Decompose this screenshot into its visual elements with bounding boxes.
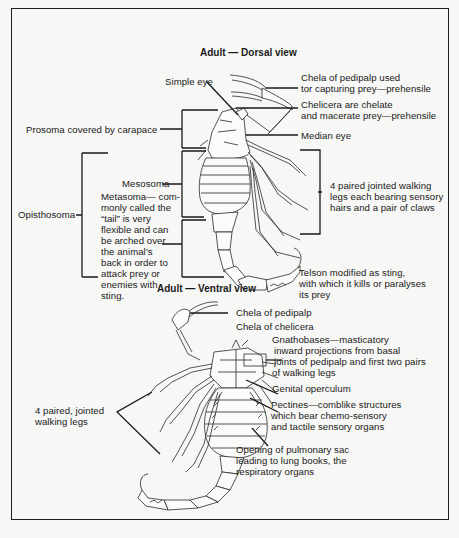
label-line: hairs and a pair of claws — [330, 202, 443, 213]
label-genital-operculum: Genital operculum — [272, 383, 351, 394]
ventral-view-title: Adult — Ventral view — [157, 283, 256, 294]
label-line: Opening of pulmonary sac — [236, 444, 349, 455]
label-line: be arched over — [101, 235, 180, 246]
label-prosoma: Prosoma covered by carapace — [26, 124, 157, 135]
label-ventral-walking-legs: 4 paired, jointed walking legs — [35, 405, 104, 427]
label-line: 4 paired jointed walking — [330, 180, 443, 191]
label-line: respiratory organs — [236, 466, 349, 477]
label-chela-of-pedipalp: Chela of pedipalp used tor capturing pre… — [301, 72, 431, 94]
label-line: back in order to — [101, 257, 180, 268]
label-line: the animal’s — [101, 246, 180, 257]
label-line: of walking legs — [272, 367, 426, 378]
label-pulmonary-sac: Opening of pulmonary sac leading to lung… — [236, 444, 349, 477]
label-line: flexible and can — [101, 224, 180, 235]
label-line: leading to lung books, the — [236, 455, 349, 466]
label-line: and tactile sensory organs — [271, 421, 401, 432]
label-chelicera: Chelicera are chelate and macerate prey—… — [301, 99, 436, 121]
label-dorsal-walking-legs: 4 paired jointed walking legs each beari… — [330, 180, 443, 213]
label-gnathobases: Gnathobases—masticatory inward projectio… — [272, 334, 426, 378]
label-line: 4 paired, jointed — [35, 405, 104, 416]
label-telson: Telson modified as sting, with which it … — [299, 267, 426, 300]
label-pectines: Pectines—comblike structures which bear … — [271, 399, 401, 432]
label-opisthosoma: Opisthosoma — [18, 209, 75, 220]
label-line: tor capturing prey—prehensile — [301, 83, 431, 94]
label-line: walking legs — [35, 416, 104, 427]
label-line: Metasoma— com- — [101, 191, 180, 202]
label-ventral-chela-of-pedipalp: Chela of pedipalp — [236, 307, 312, 318]
label-mesosoma: Mesosoma — [122, 178, 169, 189]
label-line: attack prey or — [101, 268, 180, 279]
label-line: Pectines—comblike structures — [271, 399, 401, 410]
label-line: Gnathobases—masticatory — [272, 334, 426, 345]
label-line: Chelicera are chelate — [301, 99, 436, 110]
label-line: monly called the — [101, 202, 180, 213]
label-simple-eye: Simple eye — [165, 76, 213, 87]
ventral-scorpion-drawing — [138, 302, 278, 510]
label-line: which bear chemo-sensory — [271, 410, 401, 421]
label-median-eye: Median eye — [301, 130, 351, 141]
label-line: joints of pedipalp and first two pairs — [272, 356, 426, 367]
label-line: inward projections from basal — [272, 345, 426, 356]
label-line: Telson modified as sting, — [299, 267, 426, 278]
dorsal-view-title: Adult — Dorsal view — [200, 47, 297, 58]
label-line: Chela of pedipalp used — [301, 72, 431, 83]
label-line: its prey — [299, 289, 426, 300]
label-chela-of-chelicera: Chela of chelicera — [236, 321, 314, 332]
label-line: legs each bearing sensory — [330, 191, 443, 202]
label-line: with which it kills or paralyses — [299, 278, 426, 289]
label-line: and macerate prey—prehensile — [301, 110, 436, 121]
label-line: “tail” is very — [101, 213, 180, 224]
